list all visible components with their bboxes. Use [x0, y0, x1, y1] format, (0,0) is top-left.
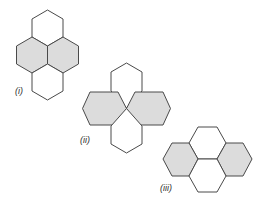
figure-i	[17, 10, 79, 100]
figure-ii-label: (ii)	[80, 136, 90, 145]
figure-i-label: (i)	[15, 87, 23, 96]
figure-iii	[163, 127, 252, 192]
hexagon-diagram	[0, 0, 266, 205]
figure-ii	[83, 63, 171, 153]
figure-iii-label: (iii)	[160, 184, 172, 193]
